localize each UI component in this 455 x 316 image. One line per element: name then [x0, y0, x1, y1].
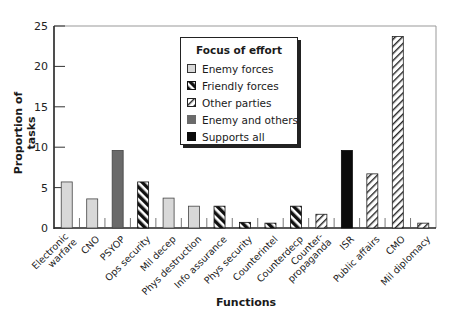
- dark-gray-swatch-icon: [187, 115, 196, 124]
- legend-title: Focus of effort: [187, 44, 291, 56]
- bar-cno: [87, 199, 98, 228]
- bar-phys-destruction: [189, 206, 200, 228]
- svg-text:ISR: ISR: [337, 233, 356, 252]
- svg-text:Public affairs: Public affairs: [331, 233, 382, 284]
- svg-text:20: 20: [34, 60, 48, 73]
- light-gray-swatch-icon: [187, 64, 196, 73]
- bar-counterdecp: [290, 206, 301, 228]
- legend-item-friendly-forces: Friendly forces: [187, 77, 291, 94]
- bar-cmo: [392, 37, 403, 228]
- svg-text:CNO: CNO: [79, 233, 102, 256]
- legend-label: Enemy forces: [202, 63, 273, 75]
- svg-text:25: 25: [34, 20, 48, 33]
- bar-mil-diplomacy: [418, 223, 429, 228]
- bar-public-affairs: [367, 174, 378, 228]
- bar-psyop: [112, 150, 123, 228]
- legend: Focus of effort Enemy forces Friendly fo…: [180, 37, 298, 145]
- legend-item-other-parties: Other parties: [187, 94, 291, 111]
- legend-item-supports-all: Supports all: [187, 128, 291, 145]
- bar-ops-security: [138, 182, 149, 228]
- white-hatch-swatch-icon: [187, 98, 196, 107]
- legend-label: Supports all: [202, 131, 265, 143]
- svg-text:0: 0: [41, 222, 48, 235]
- legend-item-enemy-forces: Enemy forces: [187, 60, 291, 77]
- legend-label: Other parties: [202, 97, 272, 109]
- bar-info-assurance: [214, 206, 225, 228]
- legend-label: Friendly forces: [202, 80, 279, 92]
- x-tick-labels: ElectronicwarfareCNOPSYOPOps securityMil…: [29, 229, 432, 297]
- black-hatch-swatch-icon: [187, 81, 196, 90]
- black-swatch-icon: [187, 132, 196, 141]
- legend-item-enemy-and-others: Enemy and others: [187, 111, 291, 128]
- bar-isr: [341, 150, 352, 228]
- bar-mil-decep: [163, 198, 174, 228]
- bar-counterintel: [265, 223, 276, 228]
- x-axis-label: Functions: [216, 296, 276, 309]
- bar-electronic-warfare: [61, 182, 72, 228]
- bar-counter-propaganda: [316, 214, 327, 228]
- legend-label: Enemy and others: [202, 114, 298, 126]
- bar-phys-security: [240, 222, 251, 228]
- y-axis-label: Proportion of tasks: [12, 78, 38, 188]
- svg-text:5: 5: [41, 182, 48, 195]
